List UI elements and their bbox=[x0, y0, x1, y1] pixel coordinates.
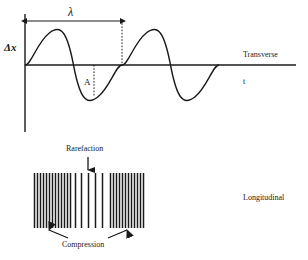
y-axis-label: Δx bbox=[4, 42, 16, 53]
longitudinal-bar-field bbox=[35, 173, 144, 228]
wave-diagram-figure: Δx λ A Transverse t Rarefaction Compress… bbox=[0, 0, 308, 260]
compression-arrow-left bbox=[49, 230, 68, 238]
rarefaction-label: Rarefaction bbox=[66, 145, 103, 153]
compression-label: Compression bbox=[62, 241, 104, 249]
diagram-canvas bbox=[0, 0, 308, 260]
amplitude-label: A bbox=[84, 78, 91, 87]
longitudinal-wave-type-label: Longitudinal bbox=[243, 194, 284, 202]
transverse-wave-type-label: Transverse bbox=[243, 51, 278, 59]
compression-arrow-right bbox=[108, 230, 127, 238]
wavelength-label: λ bbox=[68, 6, 73, 18]
x-axis-label: t bbox=[243, 78, 245, 86]
